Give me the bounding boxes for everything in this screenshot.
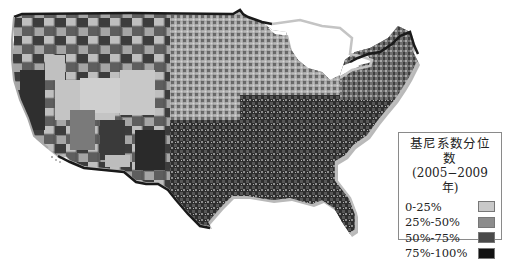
legend-item-label: 75%-100% bbox=[405, 246, 467, 260]
legend-item-label: 0-25% bbox=[405, 200, 442, 214]
legend-subtitle: (2005−2009年) bbox=[405, 166, 495, 196]
map-legend: 基尼系数分位数 (2005−2009年) 0-25% 25%-50% 50%-7… bbox=[398, 132, 502, 240]
legend-item-label: 50%-75% bbox=[405, 231, 460, 245]
channel-islands bbox=[55, 159, 56, 160]
channel-islands bbox=[51, 156, 53, 158]
legend-item-label: 25%-50% bbox=[405, 215, 460, 229]
legend-swatch bbox=[478, 232, 495, 243]
legend-item: 25%-50% bbox=[405, 215, 495, 231]
legend-item: 0-25% bbox=[405, 199, 495, 215]
legend-item: 75%-100% bbox=[405, 246, 495, 261]
channel-islands bbox=[59, 161, 60, 162]
legend-swatch bbox=[478, 217, 495, 228]
legend-title: 基尼系数分位数 bbox=[405, 136, 495, 166]
legend-swatch bbox=[478, 201, 495, 212]
legend-item: 50%-75% bbox=[405, 230, 495, 246]
legend-swatch bbox=[478, 248, 495, 259]
